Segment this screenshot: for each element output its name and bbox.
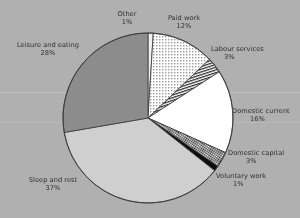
slice-label-sleep-and-rest-text: Sleep and rest [29,176,77,184]
slice-label-voluntary-work: Voluntary work 1% [216,172,284,189]
slice-label-domestic-capital-pct: 3% [246,157,300,165]
slice-label-sleep-and-rest: Sleep and rest 37% [22,176,84,193]
slice-label-other: Other 1% [104,10,150,27]
slice-label-leisure-and-eating: Leisure and eating 28% [8,41,88,58]
slice-label-labour-services: Labour services 3% [211,45,299,62]
slice-label-voluntary-work-pct: 1% [233,180,284,188]
slice-label-labour-services-pct: 3% [224,53,299,61]
slice-label-leisure-and-eating-pct: 28% [8,49,88,57]
slice-label-paid-work-text: Paid work [168,14,200,22]
pie-slices [63,33,233,203]
slice-label-domestic-current: Domestic current 16% [232,107,300,124]
slice-label-other-text: Other [118,10,137,18]
slice-label-voluntary-work-text: Voluntary work [216,172,266,180]
slice-label-domestic-capital-text: Domestic capital [228,149,284,157]
slice-label-domestic-current-pct: 16% [250,115,300,123]
slice-label-labour-services-text: Labour services [211,45,264,53]
slice-label-paid-work-pct: 12% [155,22,213,30]
slice-label-other-pct: 1% [104,18,150,26]
slice-label-leisure-and-eating-text: Leisure and eating [17,41,79,49]
slice-label-paid-work: Paid work 12% [155,14,213,31]
slice-label-sleep-and-rest-pct: 37% [22,184,84,192]
slice-label-domestic-current-text: Domestic current [232,107,290,115]
pie-chart-figure: Other 1% Paid work 12% Labour services 3… [0,0,300,218]
slice-label-domestic-capital: Domestic capital 3% [228,149,300,166]
